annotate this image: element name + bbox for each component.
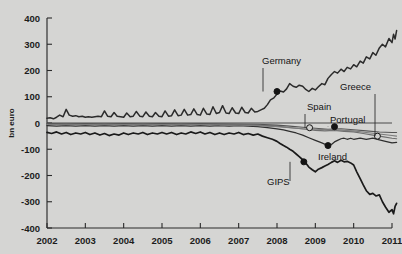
y-tick-label: 0 — [35, 118, 40, 129]
y-axis-title: bn euro — [7, 108, 16, 137]
x-tick-label: 2006 — [190, 235, 211, 246]
annotation-label-greece: Greece — [340, 81, 371, 92]
data-marker-germany — [274, 89, 280, 95]
x-tick-label: 2010 — [343, 235, 364, 246]
series-line-germany — [47, 31, 397, 119]
line-chart: GermanyGreeceSpainPortugalIrelandGIPS 40… — [0, 0, 402, 254]
x-tick-label: 2007 — [228, 235, 249, 246]
y-tick-label: -200 — [21, 170, 40, 181]
chart-container: GermanyGreeceSpainPortugalIrelandGIPS 40… — [0, 0, 402, 254]
y-tick-label: 300 — [24, 39, 40, 50]
annotation-label-spain: Spain — [307, 101, 331, 112]
x-tick-label: 2005 — [151, 235, 173, 246]
x-tick-label: 2011 — [382, 235, 402, 246]
x-tick-label: 2009 — [305, 235, 326, 246]
data-marker-gips — [301, 159, 307, 165]
x-tick-label: 2002 — [36, 235, 57, 246]
annotation-label-germany: Germany — [262, 55, 301, 66]
y-tick-label: -100 — [21, 144, 40, 155]
data-marker-spain — [307, 125, 313, 131]
x-tick-label: 2008 — [266, 235, 287, 246]
y-tick-label: -300 — [21, 196, 40, 207]
x-tick-label: 2004 — [113, 235, 135, 246]
data-marker-ireland — [325, 143, 331, 149]
y-tick-label: 100 — [24, 91, 40, 102]
annotation-label-gips: GIPS — [267, 176, 290, 187]
y-tick-label: 200 — [24, 65, 40, 76]
annotation-label-portugal: Portugal — [330, 114, 365, 125]
y-tick-label: -400 — [21, 223, 40, 234]
x-tick-label: 2003 — [75, 235, 96, 246]
annotation-label-ireland: Ireland — [318, 151, 347, 162]
series-line-gips — [47, 132, 397, 214]
y-tick-label: 400 — [24, 13, 40, 24]
annotations-layer: GermanyGreeceSpainPortugalIrelandGIPS — [262, 55, 375, 187]
